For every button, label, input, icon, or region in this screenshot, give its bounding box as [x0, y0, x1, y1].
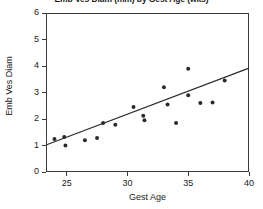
data-point — [198, 101, 202, 105]
x-tick-label: 30 — [115, 178, 139, 188]
regression-line — [46, 68, 249, 145]
data-point — [101, 121, 105, 125]
x-tick-label: 35 — [176, 178, 200, 188]
x-axis-title: Gest Age — [46, 192, 249, 202]
data-point — [95, 136, 99, 140]
data-point — [113, 123, 117, 127]
x-tick-mark — [188, 172, 189, 176]
y-tick-label: 6 — [34, 7, 39, 18]
plot-canvas — [46, 13, 249, 172]
y-tick-label: 1 — [34, 140, 39, 151]
data-point — [53, 137, 57, 141]
y-tick-label: 2 — [34, 113, 39, 124]
data-point — [63, 144, 67, 148]
scatter-plot-figure: Emb Ves Diam (mm) by Gest Age (wks) Emb … — [0, 0, 263, 209]
data-point — [162, 85, 166, 89]
data-point — [223, 79, 227, 83]
data-point — [166, 102, 170, 106]
data-point — [62, 135, 66, 139]
y-tick-label: 4 — [34, 60, 39, 71]
data-point — [211, 101, 215, 105]
data-point — [186, 67, 190, 71]
y-tick-label: 3 — [34, 87, 39, 98]
data-point — [83, 138, 87, 142]
x-tick-mark — [127, 172, 128, 176]
data-points — [53, 67, 227, 148]
x-tick-label: 40 — [237, 178, 261, 188]
data-point — [141, 114, 145, 118]
x-tick-label: 25 — [55, 178, 79, 188]
x-tick-mark — [66, 172, 67, 176]
x-axis: 25303540 — [0, 172, 263, 209]
y-tick-label: 5 — [34, 34, 39, 45]
data-point — [132, 105, 136, 109]
data-point — [142, 118, 146, 122]
data-point — [186, 93, 190, 97]
data-point — [174, 121, 178, 125]
x-tick-mark — [249, 172, 250, 176]
